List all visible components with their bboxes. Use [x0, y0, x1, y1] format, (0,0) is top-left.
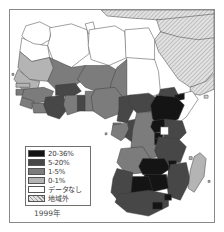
- legend-item-5: 地域外: [28, 194, 88, 203]
- country-swaziland: [164, 194, 171, 200]
- legend-label-20-36: 20-36%: [48, 150, 74, 158]
- country-togo: [77, 95, 85, 111]
- island-sao-tome: [105, 133, 107, 135]
- legend-label-no-data: データなし: [48, 186, 82, 194]
- legend-swatch-20-36: [28, 150, 45, 157]
- legend-label-1-5: 1-5%: [48, 168, 65, 176]
- year-label: 1999年: [34, 209, 60, 218]
- legend-swatch-no-data: [28, 186, 45, 193]
- map-figure: 20-36% 5-20% 1-5% 0-1% データなし 地域外: [0, 0, 224, 232]
- island-mauritius: [208, 180, 210, 182]
- island-comoros: [189, 157, 192, 160]
- country-lesotho: [153, 202, 163, 209]
- legend-swatch-5-20: [28, 159, 45, 166]
- legend-item-1: 5-20%: [28, 158, 88, 167]
- country-gambia: [16, 83, 30, 87]
- legend-label-out-of-region: 地域外: [48, 195, 68, 203]
- legend-item-0: 20-36%: [28, 149, 88, 158]
- legend-label-5-20: 5-20%: [48, 159, 70, 167]
- legend-item-3: 0-1%: [28, 176, 88, 185]
- map-frame: 20-36% 5-20% 1-5% 0-1% データなし 地域外: [9, 9, 215, 223]
- country-libya: [88, 26, 127, 66]
- legend-swatch-1-5: [28, 168, 45, 175]
- legend-swatch-0-1: [28, 177, 45, 184]
- island-socotra: [204, 95, 208, 98]
- legend-label-0-1: 0-1%: [48, 177, 65, 185]
- island-cape-verde: [12, 73, 14, 75]
- lake-victoria: [161, 127, 169, 135]
- legend-item-2: 1-5%: [28, 167, 88, 176]
- legend-swatch-out-of-region: [28, 195, 45, 202]
- map-legend: 20-36% 5-20% 1-5% 0-1% データなし 地域外: [25, 146, 91, 206]
- legend-item-4: データなし: [28, 185, 88, 194]
